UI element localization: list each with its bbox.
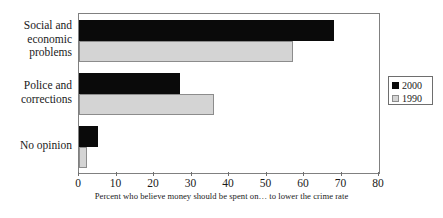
category-axis-labels: Social andeconomicproblemsPolice andcorr… bbox=[0, 13, 72, 172]
x-tick-label-10: 10 bbox=[101, 177, 131, 190]
bar-2000-0 bbox=[79, 20, 334, 41]
x-tick-mark-50 bbox=[266, 172, 267, 176]
x-tick-mark-30 bbox=[191, 172, 192, 176]
category-label-0: Social andeconomicproblems bbox=[0, 19, 72, 60]
x-axis-title: Percent who believe money should be spen… bbox=[0, 191, 443, 202]
x-tick-label-20: 20 bbox=[138, 177, 168, 190]
category-label-1: Police andcorrections bbox=[0, 79, 72, 106]
plot-area bbox=[78, 13, 380, 174]
bar-chart: Social andeconomicproblemsPolice andcorr… bbox=[0, 0, 443, 218]
bar-2000-1 bbox=[79, 73, 180, 94]
x-tick-mark-70 bbox=[341, 172, 342, 176]
bar-1990-2 bbox=[79, 147, 87, 168]
x-tick-label-30: 30 bbox=[176, 177, 206, 190]
category-label-2: No opinion bbox=[0, 139, 72, 153]
bar-1990-0 bbox=[79, 41, 293, 62]
x-tick-mark-0 bbox=[78, 172, 79, 176]
x-tick-mark-80 bbox=[378, 172, 379, 176]
x-tick-mark-60 bbox=[303, 172, 304, 176]
x-tick-mark-40 bbox=[228, 172, 229, 176]
x-tick-label-50: 50 bbox=[251, 177, 281, 190]
legend-swatch-2000-icon bbox=[392, 82, 399, 89]
bar-1990-1 bbox=[79, 94, 214, 115]
x-tick-mark-20 bbox=[153, 172, 154, 176]
legend-label-1990: 1990 bbox=[402, 93, 422, 104]
bar-2000-2 bbox=[79, 126, 98, 147]
legend-swatch-1990-icon bbox=[392, 95, 399, 102]
x-tick-label-40: 40 bbox=[213, 177, 243, 190]
x-tick-label-70: 70 bbox=[326, 177, 356, 190]
legend-item-2000: 2000 bbox=[392, 79, 432, 91]
x-tick-label-80: 80 bbox=[363, 177, 393, 190]
x-tick-label-0: 0 bbox=[63, 177, 93, 190]
legend-item-1990: 1990 bbox=[392, 92, 432, 104]
chart-legend: 2000 1990 bbox=[388, 76, 433, 105]
x-tick-label-60: 60 bbox=[288, 177, 318, 190]
x-tick-mark-10 bbox=[116, 172, 117, 176]
legend-label-2000: 2000 bbox=[402, 80, 422, 91]
